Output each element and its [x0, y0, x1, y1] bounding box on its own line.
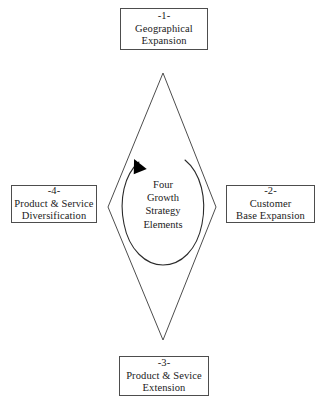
node-bottom-index: -3-	[158, 357, 171, 369]
node-left-index: -4-	[48, 185, 61, 197]
node-bottom-line2: Extension	[143, 382, 186, 394]
node-top-line1: Geographical	[135, 23, 193, 35]
node-top-line2: Expansion	[141, 35, 186, 47]
center-label-line-4: Elements	[133, 218, 193, 231]
node-box-geographical-expansion[interactable]: -1- Geographical Expansion	[120, 8, 208, 50]
node-right-line2: Base Expansion	[236, 210, 305, 222]
center-label-line-2: Growth	[133, 191, 193, 204]
node-top-index: -1-	[158, 10, 171, 22]
node-left-line1: Product & Service	[14, 198, 93, 210]
node-box-customer-base-expansion[interactable]: -2- Customer Base Expansion	[226, 185, 315, 223]
center-label-line-3: Strategy	[133, 204, 193, 217]
node-box-product-service-diversification[interactable]: -4- Product & Service Diversification	[11, 185, 97, 223]
node-right-line1: Customer	[250, 198, 292, 210]
node-bottom-line1: Product & Sevice	[126, 370, 202, 382]
node-right-index: -2-	[264, 185, 277, 197]
center-label: Four Growth Strategy Elements	[133, 178, 193, 231]
node-box-product-service-extension[interactable]: -3- Product & Sevice Extension	[119, 356, 209, 396]
node-left-line2: Diversification	[22, 210, 86, 222]
center-label-line-1: Four	[133, 178, 193, 191]
